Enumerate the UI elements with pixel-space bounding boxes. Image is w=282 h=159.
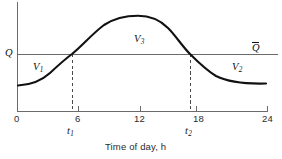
q-bar-label: Q — [252, 43, 260, 54]
region-label-v3: V3 — [134, 34, 144, 45]
q-axis-label-text: Q — [5, 47, 13, 58]
x-axis-caption: Time of day, h — [105, 142, 166, 152]
flow-rate-curve — [18, 16, 266, 86]
x-tick-label-12: 12 — [134, 114, 145, 124]
region-label-v2: V2 — [232, 62, 242, 73]
region-label-v1-sub: 1 — [40, 66, 44, 74]
x-tick-label-6: 6 — [75, 114, 80, 124]
q-bar-label-text: Q — [252, 42, 260, 53]
overbar-decoration — [252, 42, 260, 43]
q-axis-label: Q — [5, 48, 13, 59]
x-tick-label-0: 0 — [14, 114, 19, 124]
region-label-v3-sub: 3 — [141, 38, 145, 46]
region-label-v1: V1 — [33, 62, 43, 73]
plot-canvas — [0, 0, 282, 159]
marker-label-t1-sub: 1 — [70, 130, 74, 138]
region-label-v3-base: V — [134, 33, 140, 44]
region-label-v1-base: V — [33, 61, 39, 72]
marker-label-t2: t2 — [185, 126, 192, 137]
figure-container: Q Q V1 V3 V2 0 6 12 18 24 t1 t2 Time of … — [0, 0, 282, 159]
q-bar-glyph: Q — [252, 43, 260, 54]
x-tick-label-18: 18 — [193, 114, 204, 124]
x-tick-label-24: 24 — [262, 114, 273, 124]
region-label-v2-base: V — [232, 61, 238, 72]
marker-label-t2-sub: 2 — [188, 130, 192, 138]
marker-label-t1: t1 — [67, 126, 74, 137]
region-label-v2-sub: 2 — [239, 66, 243, 74]
